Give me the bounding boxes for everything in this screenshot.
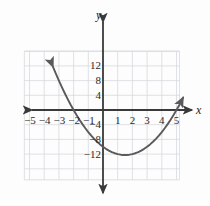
x-tick-label: −4 [38, 115, 52, 126]
x-tick-label: 4 [155, 115, 169, 126]
coordinate-plane [0, 0, 210, 206]
x-tick-label: 3 [140, 115, 154, 126]
x-tick-label: 5 [170, 115, 184, 126]
y-tick-label: 12 [81, 60, 101, 71]
y-tick-label: −8 [81, 134, 101, 145]
x-tick-label: 2 [125, 115, 139, 126]
y-tick-label: −4 [81, 119, 101, 130]
x-axis-label: x [196, 104, 201, 116]
y-axis-label: y [96, 9, 101, 21]
graph-figure: −5−4−3−2−112345 1284−4−8−12 x y [0, 0, 210, 206]
x-tick-label: 1 [111, 115, 125, 126]
axes [32, 22, 192, 193]
y-tick-label: 4 [81, 90, 101, 101]
x-tick-label: −5 [23, 115, 37, 126]
y-tick-label: −12 [81, 149, 101, 160]
x-tick-label: −2 [67, 115, 81, 126]
y-tick-label: 8 [81, 75, 101, 86]
x-tick-label: −3 [52, 115, 66, 126]
